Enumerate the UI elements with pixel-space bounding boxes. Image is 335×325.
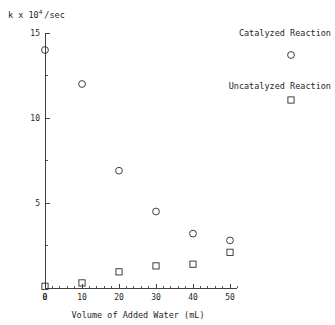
scatter-chart: 01020304050 051015 Catalyzed ReactionUnc…: [0, 0, 335, 325]
data-point-square: [227, 249, 233, 255]
legend-marker-square: [288, 97, 294, 103]
legend-label-catalyzed: Catalyzed Reaction: [239, 28, 331, 38]
data-points: [42, 47, 234, 290]
data-point-square: [153, 263, 159, 269]
data-point-square: [190, 261, 196, 267]
y-axis-title-exponent: 4: [39, 8, 43, 15]
y-axis-title: k x 104/sec: [8, 8, 65, 20]
x-axis-title: Volume of Added Water (mL): [71, 310, 204, 320]
data-point-square: [116, 269, 122, 275]
y-axis-title-suffix: /sec: [44, 10, 64, 20]
y-tick-label: 15: [30, 29, 40, 38]
data-point-circle: [79, 81, 86, 88]
chart-legend: Catalyzed ReactionUncatalyzed Reaction: [229, 28, 331, 103]
x-tick-label: 10: [77, 293, 87, 302]
axis-ticks: [45, 33, 237, 288]
data-point-circle: [190, 230, 197, 237]
legend-marker-circle: [288, 52, 295, 59]
x-tick-label: 30: [151, 293, 161, 302]
data-point-circle: [227, 237, 234, 244]
x-tick-label: 40: [188, 293, 198, 302]
x-tick-label: 20: [114, 293, 124, 302]
y-axis-title-base: k x 10: [8, 10, 39, 20]
x-axis-tick-labels: 01020304050: [43, 293, 235, 302]
y-tick-label: 0: [43, 293, 48, 302]
y-tick-label: 10: [30, 114, 40, 123]
chart-canvas: 01020304050 051015 Catalyzed ReactionUnc…: [0, 0, 335, 325]
data-point-circle: [153, 208, 160, 215]
x-tick-label: 50: [225, 293, 235, 302]
axes: [45, 33, 237, 288]
y-tick-label: 5: [35, 199, 40, 208]
legend-label-uncatalyzed: Uncatalyzed Reaction: [229, 81, 331, 91]
axis-lines: [45, 33, 237, 288]
data-point-circle: [116, 167, 123, 174]
